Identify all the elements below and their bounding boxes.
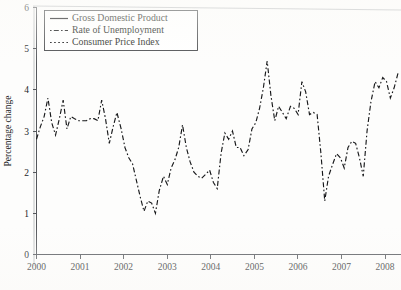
y-axis-title: Percentage change bbox=[3, 96, 13, 167]
x-axis-ticks bbox=[37, 255, 386, 260]
y-tick-label-5: 5 bbox=[24, 44, 29, 54]
x-axis-tick-labels: 2000 2001 2002 2003 2004 2005 2006 2007 … bbox=[27, 262, 395, 272]
x-tick-label-2004: 2004 bbox=[201, 262, 220, 272]
legend-label-gdp: Gross Domestic Product bbox=[72, 12, 168, 23]
plot-area bbox=[37, 61, 398, 213]
x-tick-label-2007: 2007 bbox=[332, 262, 351, 272]
x-tick-label-2006: 2006 bbox=[288, 262, 307, 272]
y-tick-label-4: 4 bbox=[24, 85, 29, 95]
x-axis: 2000 2001 2002 2003 2004 2005 2006 2007 … bbox=[27, 255, 401, 273]
x-tick-label-2001: 2001 bbox=[71, 262, 90, 272]
x-tick-label-2005: 2005 bbox=[245, 262, 264, 272]
y-tick-label-2: 2 bbox=[24, 168, 29, 178]
y-tick-label-1: 1 bbox=[24, 209, 29, 219]
chart-figure: 6 5 4 3 2 1 0 Percentage change bbox=[0, 0, 401, 290]
x-tick-label-2002: 2002 bbox=[114, 262, 133, 272]
x-tick-label-2000: 2000 bbox=[27, 262, 46, 272]
y-tick-label-3: 3 bbox=[24, 127, 29, 137]
y-axis: 6 5 4 3 2 1 0 Percentage change bbox=[3, 3, 37, 260]
y-axis-tick-labels: 6 5 4 3 2 1 0 bbox=[24, 3, 29, 260]
y-axis-ticks bbox=[33, 8, 37, 255]
y-tick-label-6: 6 bbox=[24, 3, 29, 13]
x-tick-label-2003: 2003 bbox=[158, 262, 177, 272]
chart-legend: Gross Domestic Product Rate of Unemploym… bbox=[45, 11, 198, 51]
series-line-rate-of-unemployment bbox=[37, 61, 398, 213]
percentage-change-line-chart: 6 5 4 3 2 1 0 Percentage change bbox=[0, 0, 401, 290]
x-tick-label-2008: 2008 bbox=[376, 262, 395, 272]
y-tick-label-0: 0 bbox=[24, 250, 29, 260]
legend-label-unemployment: Rate of Unemployment bbox=[72, 24, 164, 35]
legend-label-cpi: Consumer Price Index bbox=[72, 36, 160, 47]
